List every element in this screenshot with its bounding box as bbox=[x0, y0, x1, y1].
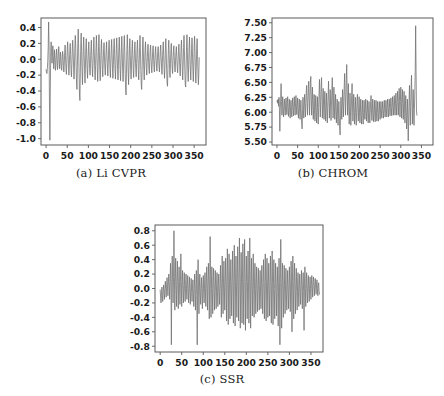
plot-b: 7.507.257.006.756.506.256.005.755.500501… bbox=[238, 12, 439, 167]
y-tick-label: -0.2 bbox=[130, 297, 150, 308]
y-tick-label: -0.8 bbox=[130, 341, 150, 352]
y-tick-label: 5.75 bbox=[244, 121, 267, 132]
y-tick-label: 6.00 bbox=[244, 107, 267, 118]
y-tick-label: 0.8 bbox=[134, 225, 150, 236]
x-tick-label: 50 bbox=[61, 150, 74, 161]
y-tick-label: -1.0 bbox=[16, 133, 36, 144]
y-tick-label: -0.4 bbox=[130, 312, 150, 323]
x-tick-label: 0 bbox=[274, 150, 280, 161]
x-tick-label: 350 bbox=[301, 357, 320, 368]
x-tick-label: 100 bbox=[79, 150, 98, 161]
x-tick-label: 300 bbox=[391, 150, 410, 161]
x-tick-label: 50 bbox=[175, 357, 188, 368]
figure-container: 0.40.20.0-0.2-0.4-0.6-0.8-1.005010015020… bbox=[0, 0, 444, 396]
y-tick-label: 7.50 bbox=[244, 17, 267, 28]
y-tick-label: -0.8 bbox=[16, 117, 36, 128]
y-tick-label: 0.0 bbox=[20, 54, 36, 65]
x-tick-label: 150 bbox=[100, 150, 119, 161]
plot-a: 0.40.20.0-0.2-0.4-0.6-0.8-1.005010015020… bbox=[7, 12, 212, 167]
x-tick-label: 0 bbox=[157, 357, 163, 368]
y-tick-label: -0.6 bbox=[130, 326, 150, 337]
x-tick-label: 100 bbox=[194, 357, 213, 368]
chart-panel-li-cvpr: 0.40.20.0-0.2-0.4-0.6-0.8-1.005010015020… bbox=[7, 12, 212, 167]
x-tick-label: 250 bbox=[142, 150, 161, 161]
y-tick-label: 0.0 bbox=[134, 283, 150, 294]
x-tick-label: 350 bbox=[412, 150, 431, 161]
y-tick-label: 6.75 bbox=[244, 62, 267, 73]
x-tick-label: 200 bbox=[237, 357, 256, 368]
x-tick-label: 50 bbox=[291, 150, 304, 161]
x-tick-label: 300 bbox=[280, 357, 299, 368]
chart-panel-ssr: 0.80.60.40.20.0-0.2-0.4-0.6-0.8050100150… bbox=[121, 219, 329, 374]
chart-caption-a: (a) Li CVPR bbox=[0, 166, 222, 180]
x-tick-label: 200 bbox=[121, 150, 140, 161]
x-tick-label: 350 bbox=[185, 150, 204, 161]
y-tick-label: 0.2 bbox=[134, 268, 150, 279]
chart-panel-chrom: 7.507.257.006.756.506.256.005.755.500501… bbox=[238, 12, 439, 167]
x-tick-label: 250 bbox=[371, 150, 390, 161]
y-tick-label: 7.25 bbox=[244, 32, 267, 43]
chart-caption-b: (b) CHROM bbox=[222, 166, 444, 180]
x-tick-label: 150 bbox=[215, 357, 234, 368]
y-tick-label: 0.4 bbox=[134, 254, 150, 265]
plot-c: 0.80.60.40.20.0-0.2-0.4-0.6-0.8050100150… bbox=[121, 219, 329, 374]
y-tick-label: 5.50 bbox=[244, 136, 267, 147]
y-tick-label: -0.6 bbox=[16, 101, 36, 112]
y-tick-label: 7.00 bbox=[244, 47, 267, 58]
y-tick-label: 6.25 bbox=[244, 92, 267, 103]
x-tick-label: 250 bbox=[258, 357, 277, 368]
y-tick-label: 6.50 bbox=[244, 77, 267, 88]
y-tick-label: 0.4 bbox=[20, 22, 36, 33]
x-tick-label: 300 bbox=[163, 150, 182, 161]
plot-frame bbox=[41, 18, 206, 145]
y-tick-label: -0.2 bbox=[16, 69, 36, 80]
x-tick-label: 150 bbox=[329, 150, 348, 161]
x-tick-label: 0 bbox=[43, 150, 49, 161]
chart-caption-c: (c) SSR bbox=[111, 372, 333, 386]
y-tick-label: -0.4 bbox=[16, 85, 36, 96]
x-tick-label: 200 bbox=[350, 150, 369, 161]
y-tick-label: 0.6 bbox=[134, 240, 150, 251]
x-tick-label: 100 bbox=[309, 150, 328, 161]
y-tick-label: 0.2 bbox=[20, 38, 36, 49]
